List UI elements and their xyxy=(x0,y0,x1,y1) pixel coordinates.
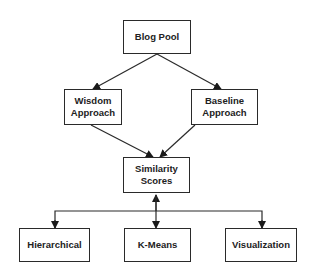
node-blog-pool: Blog Pool xyxy=(123,20,191,54)
node-similarity-scores: Similarity Scores xyxy=(123,157,190,193)
node-k-means-label: K-Means xyxy=(138,239,178,251)
node-wisdom-approach: Wisdom Approach xyxy=(64,89,122,125)
node-baseline-approach-label: Baseline Approach xyxy=(202,95,246,119)
edge-distribution-bus xyxy=(55,211,262,228)
edge-blogpool-baseline xyxy=(157,54,221,89)
edge-baseline-similarity xyxy=(160,125,195,157)
node-k-means: K-Means xyxy=(124,228,191,262)
node-baseline-approach: Baseline Approach xyxy=(191,89,258,125)
node-hierarchical: Hierarchical xyxy=(19,228,90,262)
edge-wisdom-similarity xyxy=(91,125,153,157)
edge-blogpool-wisdom xyxy=(93,54,157,89)
node-similarity-scores-label: Similarity Scores xyxy=(135,163,178,187)
node-visualization-label: Visualization xyxy=(232,239,290,251)
node-blog-pool-label: Blog Pool xyxy=(135,31,179,43)
node-hierarchical-label: Hierarchical xyxy=(27,239,81,251)
node-wisdom-approach-label: Wisdom Approach xyxy=(71,95,115,119)
node-visualization: Visualization xyxy=(225,228,297,262)
